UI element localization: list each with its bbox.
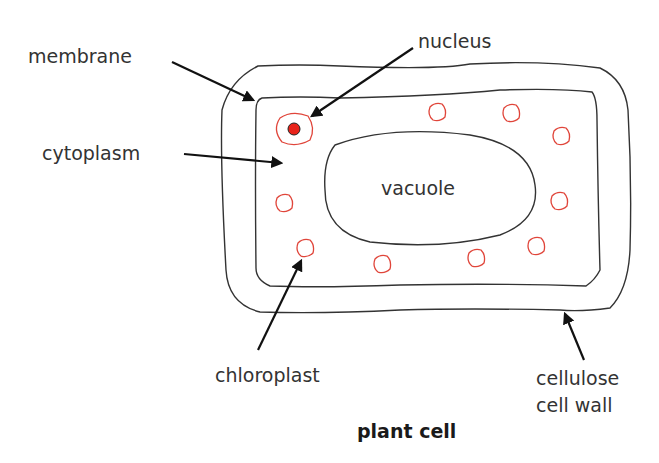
chloroplast (551, 192, 568, 209)
label-chloroplast: chloroplast (215, 364, 320, 386)
cytoplasm-arrow (184, 154, 281, 163)
chloroplast (528, 237, 545, 254)
chloroplast (297, 239, 314, 256)
label-nucleus: nucleus (418, 30, 491, 52)
plant-cell-diagram: membrane nucleus cytoplasm vacuole chlor… (0, 0, 659, 463)
label-cellulose: cellulose (536, 367, 619, 389)
cell-wall-arrow (565, 314, 584, 360)
chloroplast (429, 103, 446, 120)
chloroplast (503, 104, 520, 121)
chloroplast (374, 255, 391, 272)
chloroplast (276, 194, 293, 211)
chloroplast (468, 249, 485, 266)
label-cell-wall: cell wall (536, 394, 612, 416)
chloroplast (553, 127, 570, 144)
nucleus (276, 113, 312, 144)
nucleus-arrow (312, 48, 413, 116)
label-vacuole: vacuole (381, 177, 455, 199)
chloroplast-arrow (258, 261, 301, 350)
diagram-title: plant cell (357, 420, 456, 442)
label-cytoplasm: cytoplasm (42, 142, 140, 164)
membrane-arrow (172, 62, 253, 100)
label-membrane: membrane (28, 45, 132, 67)
